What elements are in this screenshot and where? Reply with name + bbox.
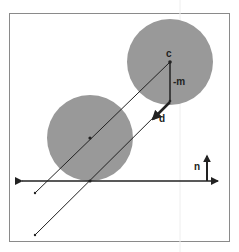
label-d: d xyxy=(159,113,165,124)
ray-end-1 xyxy=(34,192,36,194)
center-point-c xyxy=(168,60,172,64)
offset-point xyxy=(169,100,172,103)
label-c: c xyxy=(166,48,172,59)
diagram-canvas: c -m d n xyxy=(0,0,239,252)
center-point-lower xyxy=(88,136,91,139)
label-n: n xyxy=(194,161,200,172)
contact-point xyxy=(88,179,91,182)
label-neg-m: -m xyxy=(173,76,185,87)
ray-end-2 xyxy=(34,234,36,236)
